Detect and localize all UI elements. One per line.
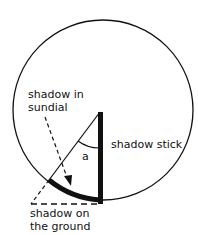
label-shadow-in-sundial: shadow in sundial: [28, 88, 84, 114]
shadow-stick: [98, 112, 103, 204]
label-shadow-on-ground: shadow on the ground: [30, 207, 90, 233]
label-angle: a: [82, 150, 89, 163]
pointer-arrowhead-icon: [64, 175, 72, 186]
angle-arc: [78, 141, 99, 148]
sundial-diagram: [0, 0, 198, 235]
sun-ray-line: [49, 112, 100, 180]
label-shadow-stick: shadow stick: [111, 138, 182, 151]
sun-ray-extension: [31, 180, 49, 204]
sundial-shadow-arc: [49, 180, 100, 200]
